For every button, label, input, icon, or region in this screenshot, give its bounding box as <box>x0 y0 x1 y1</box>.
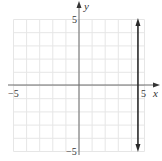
y-axis-arrow-icon <box>77 1 82 8</box>
x-axis-label: x <box>152 87 158 99</box>
y-axis-label: y <box>83 0 89 12</box>
x-tick-neg5: −5 <box>8 88 19 99</box>
line-arrow-down-icon <box>135 144 140 152</box>
y-tick-neg5: −5 <box>66 146 77 157</box>
y-tick-5: 5 <box>72 14 77 25</box>
x-tick-5: 5 <box>141 88 146 99</box>
coordinate-graph: y x −5 5 5 −5 <box>0 0 162 161</box>
